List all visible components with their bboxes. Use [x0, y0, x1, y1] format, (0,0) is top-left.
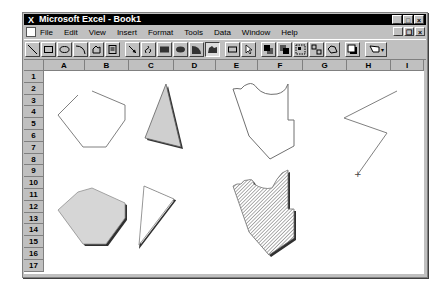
window-title: Microsoft Excel - Book1	[39, 14, 141, 25]
bring-to-front-button[interactable]	[261, 42, 276, 57]
menu-file[interactable]: File	[40, 28, 53, 37]
arc-icon	[75, 44, 86, 55]
ellipse-icon	[59, 44, 70, 55]
ungroup-button[interactable]	[309, 42, 324, 57]
drop-shadow-icon	[347, 44, 358, 55]
triangle-outline-shape[interactable]	[139, 186, 174, 245]
menu-view[interactable]: View	[89, 28, 106, 37]
doc-restore-button[interactable]: ❐	[404, 27, 414, 36]
filled-ellipse-icon	[175, 44, 186, 55]
line-tool-button[interactable]	[25, 42, 40, 57]
open-polygon-shape[interactable]	[58, 91, 125, 147]
ellipse-tool-button[interactable]	[57, 42, 72, 57]
filled-arc-tool-button[interactable]	[189, 42, 204, 57]
pattern-icon	[369, 44, 380, 55]
selection-icon	[243, 44, 254, 55]
filled-rectangle-icon	[159, 44, 170, 55]
filled-ellipse-tool-button[interactable]	[173, 42, 188, 57]
freehand-tool-button[interactable]	[141, 42, 156, 57]
reshape-button[interactable]	[325, 42, 340, 57]
menu-data[interactable]: Data	[214, 28, 231, 37]
menu-bar: File Edit View Insert Format Tools Data …	[24, 26, 426, 38]
menu-window[interactable]: Window	[242, 28, 270, 37]
create-button-tool-button[interactable]	[225, 42, 240, 57]
freehand-icon	[143, 44, 154, 55]
excel-app-icon[interactable]: X	[26, 15, 36, 25]
group-icon	[295, 44, 306, 55]
text-box-icon	[107, 44, 118, 55]
drop-shadow-button[interactable]	[345, 42, 360, 57]
menu-help[interactable]: Help	[281, 28, 297, 37]
line-icon	[27, 44, 38, 55]
polyline-shape[interactable]	[344, 91, 397, 174]
pattern-dropdown-button[interactable]: ▾	[365, 42, 387, 57]
filled-triangle-shape[interactable]	[145, 84, 181, 147]
menu-format[interactable]: Format	[148, 28, 173, 37]
rectangle-icon	[43, 44, 54, 55]
arrow-tool-button[interactable]	[125, 42, 140, 57]
freeform-outline-shape[interactable]	[233, 84, 294, 160]
close-button[interactable]: ×	[414, 15, 424, 24]
document-icon[interactable]	[26, 27, 36, 37]
send-to-back-icon	[279, 44, 290, 55]
title-bar[interactable]: X Microsoft Excel - Book1 _ □ ×	[24, 14, 426, 25]
chevron-down-icon: ▾	[381, 46, 384, 53]
freeform-icon	[91, 44, 102, 55]
filled-rectangle-tool-button[interactable]	[157, 42, 172, 57]
crosshair-cursor-icon: +	[354, 169, 362, 179]
freeform-tool-button[interactable]	[89, 42, 104, 57]
ungroup-icon	[311, 44, 322, 55]
selection-tool-button[interactable]	[241, 42, 256, 57]
menu-tools[interactable]: Tools	[184, 28, 203, 37]
menu-edit[interactable]: Edit	[64, 28, 78, 37]
arrow-icon	[127, 44, 138, 55]
menu-insert[interactable]: Insert	[117, 28, 137, 37]
minimize-button[interactable]: _	[392, 15, 402, 24]
group-button[interactable]	[293, 42, 308, 57]
arc-tool-button[interactable]	[73, 42, 88, 57]
drawing-layer: +	[24, 60, 424, 274]
rectangle-tool-button[interactable]	[41, 42, 56, 57]
hatched-freeform-shape[interactable]	[233, 170, 294, 255]
doc-minimize-button[interactable]: _	[393, 27, 403, 36]
create-button-icon	[227, 44, 238, 55]
send-to-back-button[interactable]	[277, 42, 292, 57]
excel-window: X Microsoft Excel - Book1 _ □ × File Edi…	[22, 12, 428, 278]
bring-to-front-icon	[263, 44, 274, 55]
reshape-icon	[327, 44, 338, 55]
worksheet-grid[interactable]: ABCDEFGHI 1234567891011121314151617 +	[24, 60, 424, 274]
filled-arc-icon	[191, 44, 202, 55]
filled-freeform-tool-button[interactable]	[205, 42, 220, 57]
text-box-tool-button[interactable]	[105, 42, 120, 57]
doc-close-button[interactable]: ×	[415, 27, 425, 36]
filled-freeform-icon	[207, 44, 218, 55]
drawing-toolbar: ▾	[24, 39, 426, 60]
maximize-button[interactable]: □	[403, 15, 413, 24]
